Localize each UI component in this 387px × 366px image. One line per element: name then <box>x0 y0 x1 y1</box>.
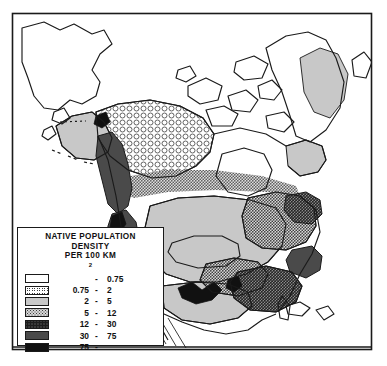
legend-units-superscript: 2 <box>18 261 163 271</box>
legend-row: - 0.75 <box>18 273 163 284</box>
legend-dash-1: - <box>92 274 101 284</box>
legend-swatch-class-5 <box>25 320 49 329</box>
legend-row: 75 - <box>18 341 163 352</box>
legend-swatch-class-2 <box>25 286 49 295</box>
legend-dash-6: - <box>92 331 101 341</box>
legend-dash-7: - <box>92 342 101 352</box>
legend-low-4: 5 <box>49 308 92 318</box>
legend-title-line-2: DENSITY <box>18 242 163 252</box>
map-figure: NATIVE POPULATION DENSITY PER 100 KM2 - … <box>0 0 387 366</box>
legend-high-1: 0.75 <box>101 274 147 284</box>
legend-title-line-3: PER 100 KM2 <box>18 251 163 270</box>
legend-swatch-class-7 <box>25 343 49 352</box>
legend-low-2: 0.75 <box>49 285 92 295</box>
legend-low-6: 30 <box>49 331 92 341</box>
legend-row: 5 - 12 <box>18 307 163 318</box>
legend-swatch-class-3 <box>25 297 49 306</box>
legend-dash-2: - <box>92 285 101 295</box>
legend-high-6: 75 <box>101 331 147 341</box>
legend-swatch-class-4 <box>25 308 49 317</box>
legend-low-7: 75 <box>49 342 92 352</box>
legend-title: NATIVE POPULATION DENSITY PER 100 KM2 <box>18 228 163 270</box>
legend-title-line-3-text: PER 100 KM <box>18 251 163 261</box>
legend-dash-3: - <box>92 296 101 306</box>
legend-class-list: - 0.75 0.75 - 2 2 - 5 5 - 12 <box>18 273 163 353</box>
legend-high-2: 2 <box>101 285 147 295</box>
legend-dash-4: - <box>92 308 101 318</box>
legend-row: 0.75 - 2 <box>18 284 163 295</box>
legend-swatch-class-6 <box>25 331 49 340</box>
map-legend: NATIVE POPULATION DENSITY PER 100 KM2 - … <box>17 227 164 346</box>
legend-title-line-1: NATIVE POPULATION <box>18 232 163 242</box>
legend-high-4: 12 <box>101 308 147 318</box>
legend-swatch-class-1 <box>25 274 49 283</box>
legend-high-5: 30 <box>101 319 147 329</box>
legend-high-3: 5 <box>101 296 147 306</box>
legend-low-3: 2 <box>49 296 92 306</box>
legend-row: 2 - 5 <box>18 296 163 307</box>
legend-dash-5: - <box>92 319 101 329</box>
legend-row: 12 - 30 <box>18 319 163 330</box>
legend-row: 30 - 75 <box>18 330 163 341</box>
legend-low-5: 12 <box>49 319 92 329</box>
